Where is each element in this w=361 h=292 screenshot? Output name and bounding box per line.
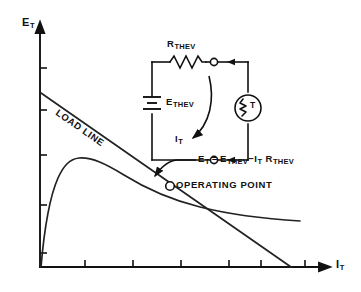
thermistor-label: T [250,100,256,110]
y-axis-label: ET [22,16,35,30]
y-axis-arrowhead [36,22,44,33]
current-arrow [193,76,211,138]
terminal-top [210,58,217,65]
load-line-equation: ET=ETHEV−ITRTHEV [198,153,294,166]
resistor-symbol [170,56,206,68]
terminal-arrowheads [227,59,235,163]
x-axis-arrowhead [319,263,330,271]
resistor-label: RTHEV [167,38,196,51]
figure-canvas: ET IT LOAD LINE OPERATING POINT ET=ETHEV… [0,0,361,292]
thevenin-circuit [152,56,248,164]
thermistor-symbol [235,95,261,121]
source-label: ETHEV [166,96,194,109]
x-axis-ticks [85,260,305,267]
battery-symbol [143,97,161,109]
operating-point-marker [166,182,175,191]
current-label: IT [175,133,183,146]
operating-point-label: OPERATING POINT [176,179,272,190]
x-axis-label: IT [336,258,345,272]
equation-leader-line [155,160,196,176]
thermistor-characteristic-curve [41,158,300,267]
